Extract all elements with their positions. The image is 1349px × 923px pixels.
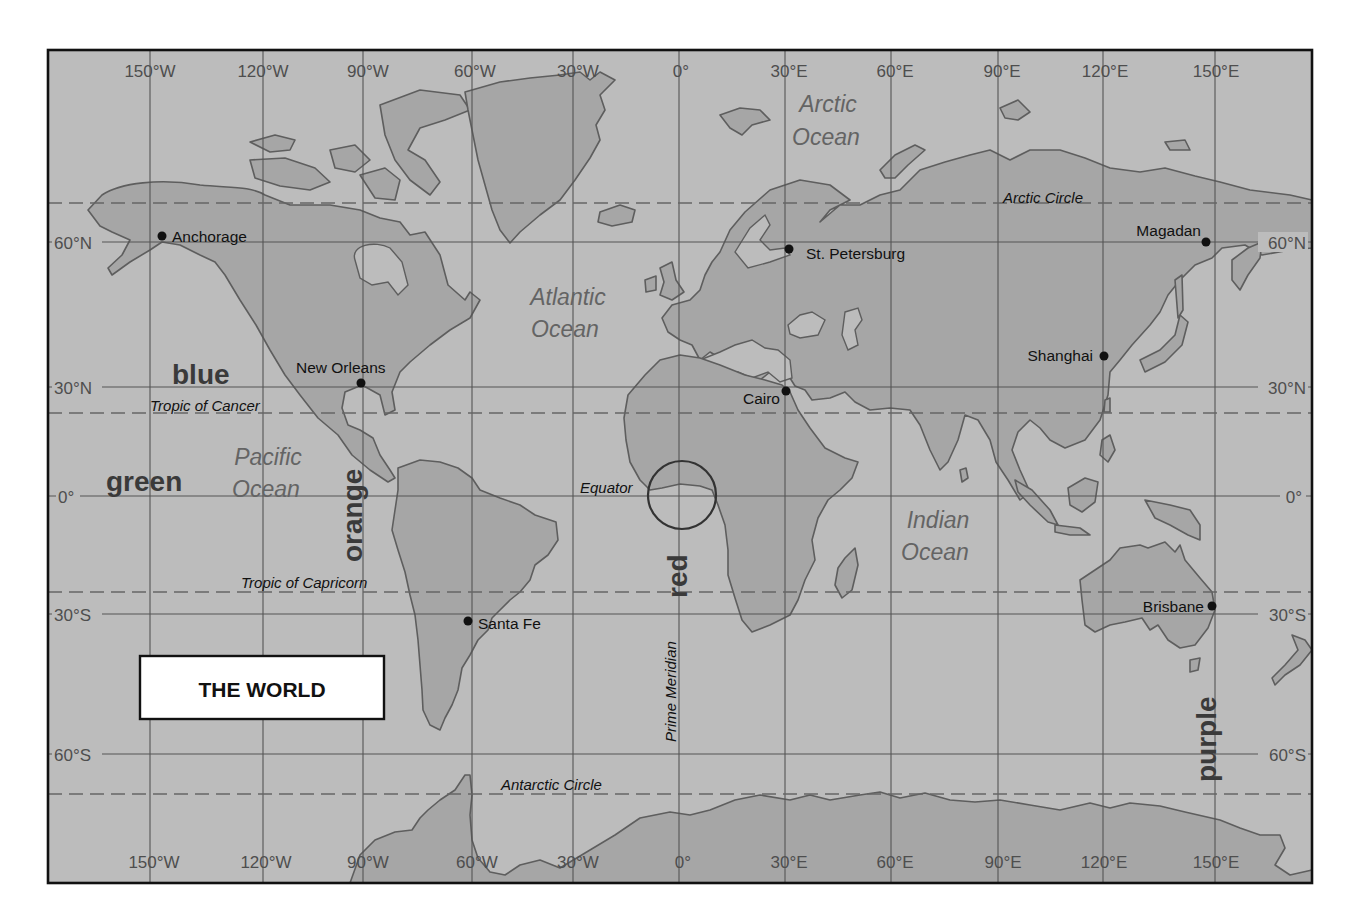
arctic-circle-label: Arctic Circle (1002, 189, 1083, 206)
map-title-box: THE WORLD (140, 656, 384, 719)
lon-label: 90°E (983, 62, 1020, 81)
lon-label: 90°W (347, 853, 389, 872)
city-marker-icon (1202, 238, 1211, 247)
tropic-of-capricorn-label: Tropic of Capricorn (241, 574, 367, 591)
lon-label: 60°W (456, 853, 498, 872)
arctic-ocean-label-1: Arctic (797, 91, 857, 117)
city-marker-icon (357, 379, 366, 388)
lon-label: 150°E (1193, 853, 1240, 872)
lon-label: 30°W (557, 62, 599, 81)
new-siberian-islands (1165, 140, 1190, 150)
lat-label: 30°S (1269, 606, 1306, 625)
city-label: Shanghai (1027, 347, 1093, 364)
indian-ocean-label-1: Indian (907, 507, 970, 533)
pacific-ocean-label-2: Ocean (232, 476, 300, 502)
lon-label: 0° (673, 62, 689, 81)
antarctic-circle-label: Antarctic Circle (500, 776, 602, 793)
color-label-blue: blue (172, 359, 230, 390)
atlantic-ocean-label-1: Atlantic (528, 284, 606, 310)
world-map: 150°W 120°W 90°W 60°W 30°W 0° 30°E 60°E … (0, 0, 1349, 923)
taiwan (1104, 398, 1110, 412)
city-label: Anchorage (172, 228, 247, 245)
city-label: Magadan (1136, 222, 1201, 239)
tasmania (1190, 658, 1200, 672)
city-marker-icon (1208, 602, 1217, 611)
lat-label: 60°S (1269, 746, 1306, 765)
lat-label: 30°N (54, 379, 92, 398)
color-label-red: red (662, 554, 693, 598)
lon-label: 60°E (876, 853, 913, 872)
lon-label: 90°W (347, 62, 389, 81)
indian-ocean-label-2: Ocean (901, 539, 969, 565)
city-marker-icon (1100, 352, 1109, 361)
city-label: St. Petersburg (806, 245, 905, 262)
city-marker-icon (464, 617, 473, 626)
city-label: Brisbane (1143, 598, 1204, 615)
lat-label: 60°S (54, 746, 91, 765)
lon-label: 120°W (240, 853, 291, 872)
pacific-ocean-label-1: Pacific (234, 444, 302, 470)
map-title: THE WORLD (198, 678, 325, 701)
lon-label: 150°W (128, 853, 179, 872)
city-marker-icon (158, 232, 167, 241)
lat-label: 30°N (1268, 379, 1306, 398)
atlantic-ocean-label-2: Ocean (531, 316, 599, 342)
lon-label: 150°W (124, 62, 175, 81)
lat-label: 60°N (54, 234, 92, 253)
lon-label: 120°W (237, 62, 288, 81)
lat-label: 30°S (54, 606, 91, 625)
prime-meridian-label: Prime Meridian (662, 641, 679, 742)
lon-label: 60°W (454, 62, 496, 81)
lon-label: 30°E (770, 853, 807, 872)
lat-label: 60°N (1268, 234, 1306, 253)
lon-label: 90°E (984, 853, 1021, 872)
city-label: Cairo (743, 390, 780, 407)
lon-label: 60°E (876, 62, 913, 81)
lon-label: 0° (675, 853, 691, 872)
arctic-ocean-label-2: Ocean (792, 124, 860, 150)
color-label-orange: orange (337, 469, 368, 562)
lon-label: 120°E (1082, 62, 1129, 81)
city-label: Santa Fe (478, 615, 541, 632)
color-label-purple: purple (1191, 696, 1222, 782)
color-label-green: green (106, 466, 182, 497)
lon-label: 120°E (1081, 853, 1128, 872)
lat-label: 0° (1286, 488, 1302, 507)
lat-label: 0° (58, 488, 74, 507)
tropic-of-cancer-label: Tropic of Cancer (150, 397, 261, 414)
city-marker-icon (785, 245, 794, 254)
city-label: New Orleans (296, 359, 386, 376)
equator-label: Equator (580, 479, 634, 496)
lon-label: 30°W (557, 853, 599, 872)
lon-label: 30°E (770, 62, 807, 81)
city-marker-icon (782, 387, 791, 396)
lon-label: 150°E (1193, 62, 1240, 81)
